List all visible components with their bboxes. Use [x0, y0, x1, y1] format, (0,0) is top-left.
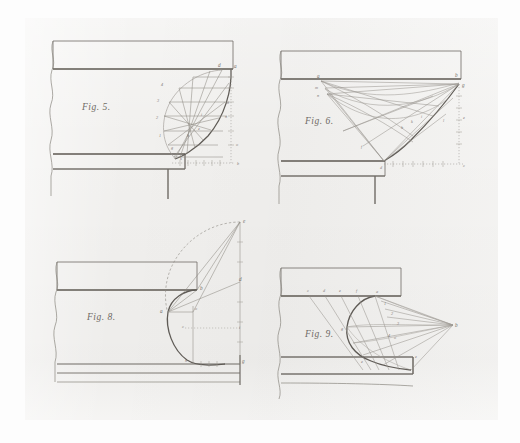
- fig6-label-c: c: [463, 163, 465, 168]
- fig5-label-h: h: [187, 133, 189, 138]
- fig6-label-a: a: [317, 73, 320, 79]
- fig5-drawing: Fig. 5. d a e n h m i g k o b 4 3 2 1: [35, 36, 257, 206]
- figure-fig5: Fig. 5. d a e n h m i g k o b 4 3 2 1: [35, 36, 257, 206]
- fig6-construction-rays: [321, 81, 459, 161]
- fig9-label-c-focus: b: [455, 322, 458, 328]
- fig5-profile-curve: [175, 69, 231, 159]
- fig5-station-4: 4: [161, 82, 163, 87]
- fig6-label-h: h: [401, 125, 403, 130]
- fig6-label-m: m: [315, 85, 318, 90]
- fig5-label-a: a: [234, 63, 237, 69]
- fig5-caption: Fig. 5.: [81, 102, 111, 112]
- fig8-label-g: g: [242, 358, 245, 364]
- fig8-masonry: [54, 262, 240, 385]
- fig6-label-b: b: [455, 72, 458, 78]
- fig6-drawing: Fig. 6. a m n b g e h k i l f c d: [263, 36, 485, 206]
- fig8-radius-lines: [168, 222, 240, 364]
- fig5-label-b: b: [237, 161, 239, 166]
- fig8-label-h: h: [185, 358, 187, 363]
- fig8-tick-marks: [201, 242, 243, 367]
- fig6-label-g: g: [462, 82, 465, 88]
- fig6-label-k: k: [411, 119, 413, 124]
- fig9-label-b: e: [415, 354, 417, 359]
- fig5-station-2: 2: [156, 115, 158, 120]
- fig9-label-f: f: [356, 288, 358, 293]
- fig9-label-c: c: [307, 288, 309, 293]
- fig8-caption: Fig. 8.: [86, 312, 116, 322]
- figure-fig6: Fig. 6. a m n b g e h k i l f c d: [263, 36, 485, 206]
- fig6-label-i: i: [421, 114, 423, 119]
- fig6-label-d: d: [380, 165, 383, 170]
- fig6-masonry: [278, 51, 461, 204]
- fig5-label-o: o: [236, 142, 238, 147]
- fig9-label-d: d: [323, 288, 326, 293]
- fig5-label-m: m: [226, 100, 229, 105]
- fig9-label-a: a: [376, 289, 378, 294]
- fig8-label-i: i: [239, 325, 241, 330]
- fig8-label-o: o: [195, 306, 197, 311]
- fig9-station-1: 1: [384, 301, 386, 306]
- fig5-label-g: g: [171, 145, 173, 150]
- fig8-label-c: c: [182, 324, 184, 329]
- fig9-station-4: 4: [388, 333, 390, 338]
- fig8-drawing: Fig. 8. e b d a o c i h g: [35, 210, 257, 390]
- fig8-label-b: b: [200, 285, 203, 291]
- fig6-label-e: e: [463, 115, 465, 120]
- fig8-circumscribing-arc: [165, 222, 240, 310]
- fig9-label-e: e: [339, 288, 341, 293]
- fig9-station-2: 2: [391, 311, 393, 316]
- fig8-label-d: d: [239, 276, 242, 282]
- fig5-station-3: 3: [157, 98, 159, 103]
- fig5-label-n: n: [225, 114, 227, 119]
- fig5-masonry: [50, 41, 233, 199]
- scanned-sheet: Fig. 5. d a e n h m i g k o b 4 3 2 1: [25, 18, 498, 420]
- figure-fig9: Fig. 9. c d e f a 1 2 3 4 g o b e e: [263, 243, 485, 403]
- plate-page: Fig. 5. d a e n h m i g k o b 4 3 2 1: [0, 0, 520, 443]
- fig5-label-d: d: [218, 62, 221, 68]
- figure-fig8: Fig. 8. e b d a o c i h g: [35, 210, 257, 390]
- fig6-label-l: l: [443, 118, 445, 123]
- fig5-station-1: 1: [159, 133, 161, 138]
- fig9-label-e2: e: [361, 359, 363, 364]
- fig6-label-n: n: [317, 93, 319, 98]
- fig9-caption: Fig. 9.: [304, 329, 334, 339]
- fig9-profile-curve: [347, 296, 411, 370]
- fig9-station-3: 3: [397, 321, 399, 326]
- fig9-label-g: g: [341, 326, 343, 331]
- fig9-drawing: Fig. 9. c d e f a 1 2 3 4 g o b e e: [263, 243, 485, 403]
- fig8-label-e: e: [243, 218, 246, 224]
- fig5-label-k: k: [180, 156, 182, 161]
- fig8-label-a: a: [160, 308, 163, 314]
- fig6-caption: Fig. 6.: [304, 116, 334, 126]
- fig5-label-e: e: [198, 126, 200, 131]
- fig9-label-o: o: [394, 335, 396, 340]
- fig8-profile-curve: [167, 290, 225, 365]
- fig9-masonry: [278, 268, 413, 399]
- fig6-label-f: f: [361, 144, 363, 149]
